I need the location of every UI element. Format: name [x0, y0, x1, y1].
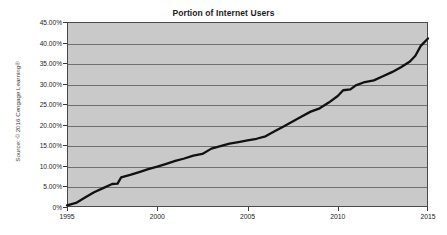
x-axis-tick-label: 2015 — [420, 213, 435, 220]
y-axis-tick-label: 35.00% — [40, 60, 62, 67]
y-axis-tick-mark — [63, 84, 67, 85]
plot-wrapper — [67, 22, 428, 207]
y-axis-tick-label: 30.00% — [40, 80, 62, 87]
x-axis-tick-label: 2010 — [330, 213, 345, 220]
y-axis-tick-mark — [63, 166, 67, 167]
chart-figure: Portion of Internet Users Source: © 2016… — [0, 0, 447, 235]
x-axis-tick-label: 1995 — [59, 213, 74, 220]
y-axis-tick-mark — [63, 104, 67, 105]
chart-title: Portion of Internet Users — [0, 8, 447, 18]
y-axis-tick-mark — [63, 22, 67, 23]
y-axis-tick-mark — [63, 125, 67, 126]
y-axis-tick-label: 20.00% — [40, 121, 62, 128]
x-axis-tick-mark — [248, 207, 249, 211]
x-axis-tick-mark — [427, 207, 428, 211]
data-line-series — [67, 38, 428, 205]
y-axis-tick-label: 15.00% — [40, 142, 62, 149]
y-axis-tick-label: 25.00% — [40, 101, 62, 108]
y-axis-tick-label: 10.00% — [40, 162, 62, 169]
x-axis-tick-mark — [157, 207, 158, 211]
y-axis-tick-label: 45.00% — [40, 19, 62, 26]
y-axis-labels: 0%5.00%10.00%15.00%20.00%25.00%30.00%35.… — [20, 22, 62, 207]
y-axis-tick-label: 5.00% — [43, 183, 62, 190]
y-axis-tick-mark — [63, 145, 67, 146]
x-axis-tick-label: 2000 — [150, 213, 165, 220]
y-axis-tick-label: 40.00% — [40, 39, 62, 46]
y-axis-tick-mark — [63, 186, 67, 187]
data-line-svg — [67, 22, 428, 207]
x-axis-tick-mark — [67, 207, 68, 211]
y-axis-tick-mark — [63, 43, 67, 44]
y-axis-tick-mark — [63, 63, 67, 64]
x-axis-tick-mark — [338, 207, 339, 211]
y-axis-tick-label: 0% — [52, 204, 62, 211]
x-axis-tick-label: 2005 — [240, 213, 255, 220]
